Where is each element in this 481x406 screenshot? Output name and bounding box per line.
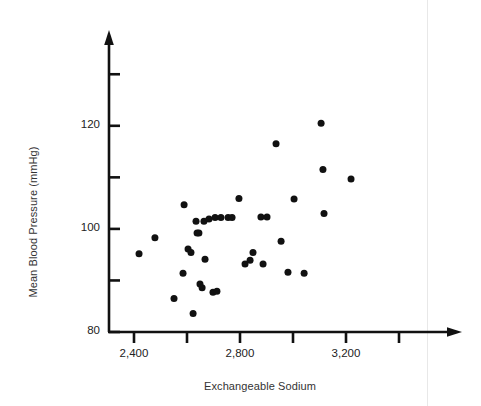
y-axis-tick-label: 80 [66, 324, 100, 336]
y-axis-ticks [109, 74, 120, 332]
y-axis-title: Mean Blood Pressure (mmHg) [27, 127, 39, 317]
x-axis-ticks [134, 332, 399, 343]
data-point [217, 214, 224, 221]
data-point [199, 284, 206, 291]
x-axis-tick-label: 3,200 [323, 347, 369, 359]
data-point [247, 257, 254, 264]
data-point [235, 195, 242, 202]
figure-page: Mean Blood Pressure (mmHg) Exchangeable … [0, 0, 481, 406]
y-axis-tick-label: 120 [66, 118, 100, 130]
data-point [193, 218, 200, 225]
data-point [190, 310, 197, 317]
x-axis-title: Exchangeable Sodium [150, 380, 370, 392]
scatter-plot [0, 0, 481, 406]
data-point [321, 210, 328, 217]
data-point [264, 214, 271, 221]
data-point [318, 120, 325, 127]
data-point [319, 166, 326, 173]
data-point [181, 201, 188, 208]
data-point [273, 140, 280, 147]
data-point [151, 234, 158, 241]
data-point [136, 250, 143, 257]
data-point [229, 214, 236, 221]
data-point [284, 269, 291, 276]
data-point [291, 196, 298, 203]
x-axis-tick-label: 2,800 [217, 347, 263, 359]
y-axis [104, 30, 120, 332]
data-point [278, 238, 285, 245]
data-point [171, 295, 178, 302]
data-point [187, 249, 194, 256]
data-point [301, 270, 308, 277]
data-point [249, 249, 256, 256]
data-point [260, 260, 267, 267]
data-point [213, 288, 220, 295]
x-axis-tick-label: 2,400 [111, 347, 157, 359]
y-axis-tick-label: 100 [66, 221, 100, 233]
data-point [180, 270, 187, 277]
data-point [205, 216, 212, 223]
x-axis [108, 327, 462, 343]
data-point [202, 256, 209, 263]
data-point [257, 214, 264, 221]
data-point-group [136, 120, 355, 317]
data-point [195, 230, 202, 237]
data-point [348, 175, 355, 182]
